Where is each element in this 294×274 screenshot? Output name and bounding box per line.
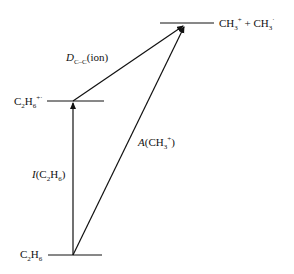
label-part: H <box>31 248 39 260</box>
products-label: CH3+ + CH3· <box>219 17 275 32</box>
label-part: ) <box>62 168 66 180</box>
label-part: + CH <box>242 17 269 29</box>
dissociation-energy-label: DC–C(ion) <box>66 52 108 66</box>
label-sub: C–C <box>74 58 87 66</box>
label-sub: 3 <box>234 24 238 32</box>
label-sub: 6 <box>33 102 37 110</box>
label-sup: +· <box>36 94 42 102</box>
label-italic: D <box>66 51 74 63</box>
label-part: (ion) <box>87 51 108 63</box>
label-sub: 3 <box>164 143 168 151</box>
label-part: (CH <box>145 136 164 148</box>
label-part: ) <box>171 136 175 148</box>
label-part: (C <box>36 168 47 180</box>
label-sub: 6 <box>39 255 43 263</box>
ion-level-label: C2H6+· <box>14 95 43 110</box>
label-part: CH <box>219 17 234 29</box>
label-sub: 3 <box>269 24 273 32</box>
label-part: H <box>25 95 33 107</box>
neutral-level-label: C2H6 <box>20 249 42 263</box>
label-sup: · <box>272 16 274 24</box>
ionization-energy-label: I(C2H6) <box>32 169 65 183</box>
label-italic: A <box>138 136 145 148</box>
appearance-energy-label: A(CH3+) <box>138 136 175 151</box>
label-part: H <box>50 168 58 180</box>
